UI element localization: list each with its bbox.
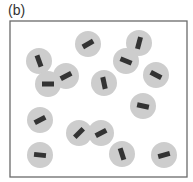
particle: [113, 48, 139, 74]
particles-group: [26, 30, 177, 168]
particle: [109, 141, 135, 167]
particle: [27, 107, 53, 133]
particle-diagram: [0, 0, 193, 182]
particle: [130, 93, 156, 119]
orientation-bar: [42, 82, 54, 87]
particle: [75, 31, 101, 57]
particle: [88, 120, 114, 146]
particle: [143, 62, 169, 88]
particle: [35, 71, 61, 97]
particle: [26, 48, 52, 74]
particle: [151, 142, 177, 168]
particle: [91, 70, 117, 96]
particle: [27, 142, 53, 168]
